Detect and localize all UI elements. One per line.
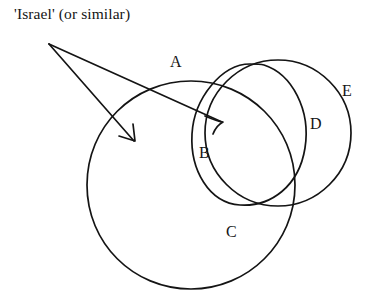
circle-e-outline [205,60,351,206]
region-label-a: A [170,54,182,70]
region-label-b: B [199,145,210,161]
region-label-e: E [342,83,352,99]
arrow-right-shaft [49,44,222,122]
venn-diagram-graphic [0,0,378,300]
arrow-left-shaft [49,44,134,141]
circle-b-outline [192,64,306,205]
diagram-canvas: 'Israel' (or similar) A B C D E [0,0,378,300]
region-label-c: C [226,224,237,240]
region-label-d: D [310,116,322,132]
circle-c-outline [87,81,295,289]
israel-caption: 'Israel' (or similar) [14,5,130,23]
